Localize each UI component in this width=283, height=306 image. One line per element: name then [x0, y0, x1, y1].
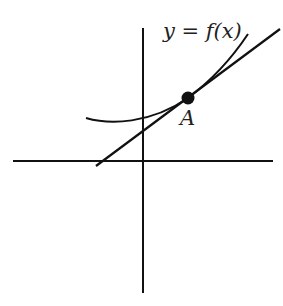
point-a-dot [182, 92, 195, 105]
curve-label: y = f(x) [162, 19, 242, 43]
tangent-diagram: y = f(x) A [0, 0, 283, 306]
curve [86, 34, 248, 122]
point-a-label: A [178, 106, 195, 130]
